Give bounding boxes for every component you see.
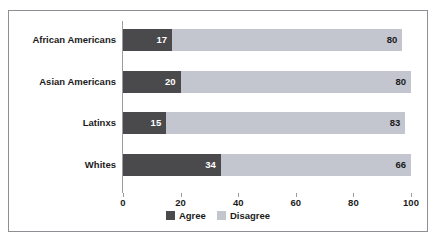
bar-segment-agree: 34 [123,154,221,176]
legend-swatch-icon [217,211,226,220]
bar-row: African Americans1780 [123,29,411,51]
bar-value-label: 20 [165,77,176,87]
bar-value-label: 66 [395,160,406,170]
category-label: Latinxs [83,118,116,128]
bar-value-label: 34 [205,160,216,170]
bar-value-label: 83 [390,118,401,128]
x-tick-label: 60 [291,198,302,208]
x-tick-label: 100 [403,198,419,208]
bar-segment-disagree: 80 [181,71,411,93]
bar-row: Whites3466 [123,154,411,176]
category-label: African Americans [32,35,116,45]
x-tick-label: 20 [175,198,186,208]
bar-segment-agree: 15 [123,112,166,134]
bar-segment-disagree: 80 [172,29,402,51]
bar-value-label: 17 [156,35,167,45]
legend-item-agree[interactable]: Agree [166,211,206,221]
bar-segment-disagree: 66 [221,154,411,176]
bar-segment-agree: 20 [123,71,181,93]
category-label: Whites [85,160,116,170]
bar-value-label: 80 [395,77,406,87]
bar-row: Asian Americans2080 [123,71,411,93]
bar-value-label: 80 [387,35,398,45]
chart-frame: African Americans1780Asian Americans2080… [8,10,428,232]
x-tick-label: 80 [348,198,359,208]
legend-label: Agree [179,211,206,221]
x-tick-label: 0 [120,198,125,208]
bar-segment-disagree: 83 [166,112,405,134]
legend-swatch-icon [166,211,175,220]
legend-label: Disagree [230,211,270,221]
category-label: Asian Americans [39,77,116,87]
bar-row: Latinxs1583 [123,112,411,134]
bar-segment-agree: 17 [123,29,172,51]
bar-value-label: 15 [151,118,162,128]
x-tick-label: 40 [233,198,244,208]
legend-item-disagree[interactable]: Disagree [217,211,270,221]
plot-area: African Americans1780Asian Americans2080… [123,21,411,191]
chart-legend: AgreeDisagree [9,211,427,221]
